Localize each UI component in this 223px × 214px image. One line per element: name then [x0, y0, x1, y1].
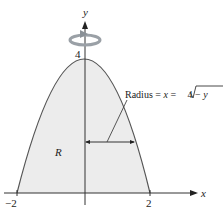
region-label: R	[54, 146, 62, 158]
radius-annotation: Radius = x = 4 − y	[125, 89, 208, 100]
y-tick-4: 4	[75, 48, 81, 60]
x-axis-label: x	[200, 187, 206, 199]
y-axis-label: y	[82, 6, 88, 18]
x-axis-arrow-icon	[190, 190, 198, 196]
figure: y x 4 −2 2 R Radius = x = 4 − y	[0, 0, 223, 214]
y-axis-arrow-icon	[82, 21, 88, 29]
x-tick-neg2: −2	[5, 197, 17, 209]
x-tick-2: 2	[146, 197, 152, 209]
